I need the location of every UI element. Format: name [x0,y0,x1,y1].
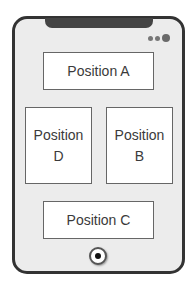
position-d-label-line2: D [34,146,84,167]
status-dot-icon [148,36,153,41]
position-c-label: Position C [67,210,131,231]
position-b-box: Position B [106,107,173,184]
position-a-label: Position A [67,61,129,82]
status-dot-icon [162,34,170,42]
status-dot-icon [155,36,160,41]
position-a-box: Position A [43,52,154,90]
home-button-center [95,253,101,259]
phone-frame: Position A Position D Position B Positio… [12,16,185,274]
position-b-label-line1: Position [115,125,165,146]
position-d-box: Position D [25,107,92,184]
position-d-label-line1: Position [34,125,84,146]
position-b-label-line2: B [115,146,165,167]
position-c-box: Position C [43,201,154,239]
status-dots-icon [148,34,170,42]
phone-notch [45,18,153,28]
home-button-icon [89,247,107,265]
